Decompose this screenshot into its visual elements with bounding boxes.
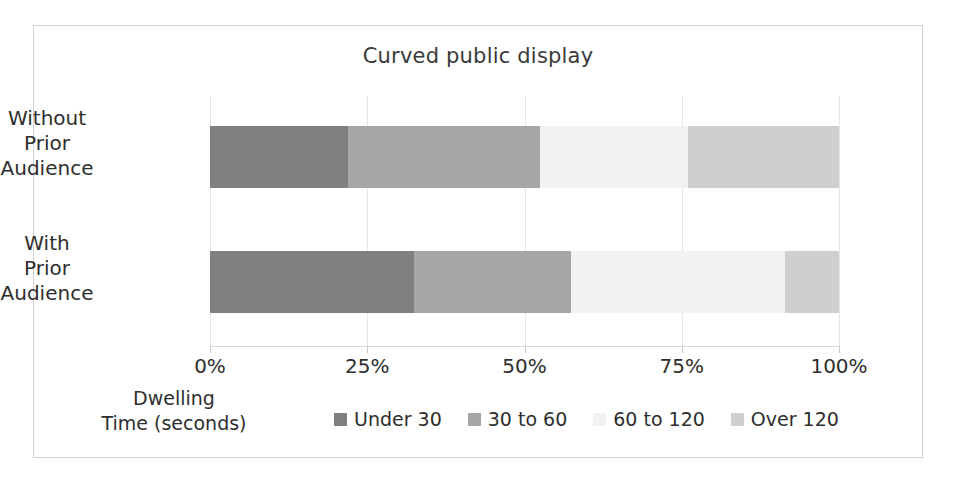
x-axis-tick-mark	[682, 346, 683, 353]
category-label-line: Audience	[0, 156, 127, 181]
legend-item[interactable]: Over 120	[731, 408, 839, 430]
chart-frame: Curved public display Without Prior Audi…	[33, 25, 923, 458]
bar-segment[interactable]	[688, 126, 839, 188]
stacked-bar[interactable]	[210, 251, 839, 313]
x-axis-tick-label: 50%	[480, 354, 570, 378]
category-label-line: Audience	[0, 281, 127, 306]
legend-label: Under 30	[354, 408, 442, 430]
bar-segment[interactable]	[785, 251, 839, 313]
bar-segment[interactable]	[210, 251, 414, 313]
category-label-with-prior-audience: With Prior Audience	[0, 231, 127, 306]
category-label-line: With	[0, 231, 127, 256]
plot-area	[210, 96, 839, 346]
legend-label: 30 to 60	[488, 408, 568, 430]
bar-segment[interactable]	[210, 126, 348, 188]
bar-segment[interactable]	[348, 126, 540, 188]
legend-label: 60 to 120	[613, 408, 705, 430]
x-axis-tick-label: 100%	[794, 354, 884, 378]
legend-item[interactable]: 30 to 60	[468, 408, 568, 430]
bar-segment[interactable]	[414, 251, 571, 313]
legend-swatch-icon	[731, 413, 744, 426]
axis-title: Dwelling Time (seconds)	[74, 386, 274, 436]
bar-segment[interactable]	[540, 126, 688, 188]
legend-swatch-icon	[468, 413, 481, 426]
stacked-bar[interactable]	[210, 126, 839, 188]
bar-segment[interactable]	[571, 251, 785, 313]
category-label-line: Prior	[0, 256, 127, 281]
legend-swatch-icon	[593, 413, 606, 426]
legend-swatch-icon	[334, 413, 347, 426]
legend-item[interactable]: Under 30	[334, 408, 442, 430]
legend-label: Over 120	[751, 408, 839, 430]
x-axis-tick-label: 0%	[165, 354, 255, 378]
x-axis-tick-label: 25%	[322, 354, 412, 378]
category-label-line: Prior	[0, 131, 127, 156]
category-label-line: Without	[0, 106, 127, 131]
gridline	[839, 96, 840, 346]
chart-legend: Under 3030 to 6060 to 120Over 120	[334, 408, 894, 430]
x-axis-tick-mark	[367, 346, 368, 353]
category-label-without-prior-audience: Without Prior Audience	[0, 106, 127, 181]
legend-item[interactable]: 60 to 120	[593, 408, 705, 430]
axis-title-line: Time (seconds)	[74, 411, 274, 436]
x-axis-tick-label: 75%	[637, 354, 727, 378]
x-axis-tick-mark	[839, 346, 840, 353]
chart-title: Curved public display	[34, 44, 922, 68]
x-axis-tick-mark	[525, 346, 526, 353]
x-axis-tick-mark	[210, 346, 211, 353]
axis-title-line: Dwelling	[74, 386, 274, 411]
